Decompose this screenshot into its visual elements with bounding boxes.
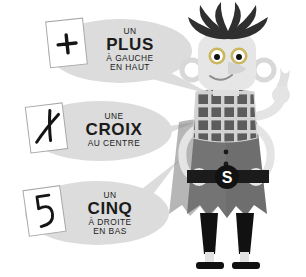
hand-right	[272, 86, 290, 104]
ankle-left	[205, 252, 214, 263]
head	[198, 34, 256, 90]
shoe-left	[196, 262, 224, 269]
button-2	[224, 150, 229, 155]
instruction-cinq: UN CINQ À DROITE EN BAS	[58, 191, 162, 236]
instruction-plus-line2: PLUS	[82, 36, 178, 53]
belt-buckle-letter: S	[222, 169, 233, 186]
pupil-left	[214, 54, 220, 60]
instruction-cinq-line4: EN BAS	[58, 227, 162, 236]
instruction-cinq-line2: CINQ	[58, 200, 162, 217]
pointing-finger-icon	[276, 67, 290, 89]
leg-right	[236, 213, 254, 254]
illustration-canvas: S	[0, 0, 306, 277]
hair	[188, 2, 268, 39]
instruction-plus-line4: EN HAUT	[82, 63, 178, 72]
instruction-croix: UNE CROIX AU CENTRE	[62, 112, 166, 148]
pupil-right	[236, 54, 242, 60]
instruction-croix-line2: CROIX	[62, 121, 166, 138]
leg-left	[200, 213, 218, 254]
ear-right	[254, 60, 274, 80]
instruction-croix-line3: AU CENTRE	[62, 139, 166, 148]
shoe-right	[232, 262, 260, 269]
instruction-plus: UN PLUS À GAUCHE EN HAUT	[82, 27, 178, 72]
ankle-right	[240, 252, 249, 263]
